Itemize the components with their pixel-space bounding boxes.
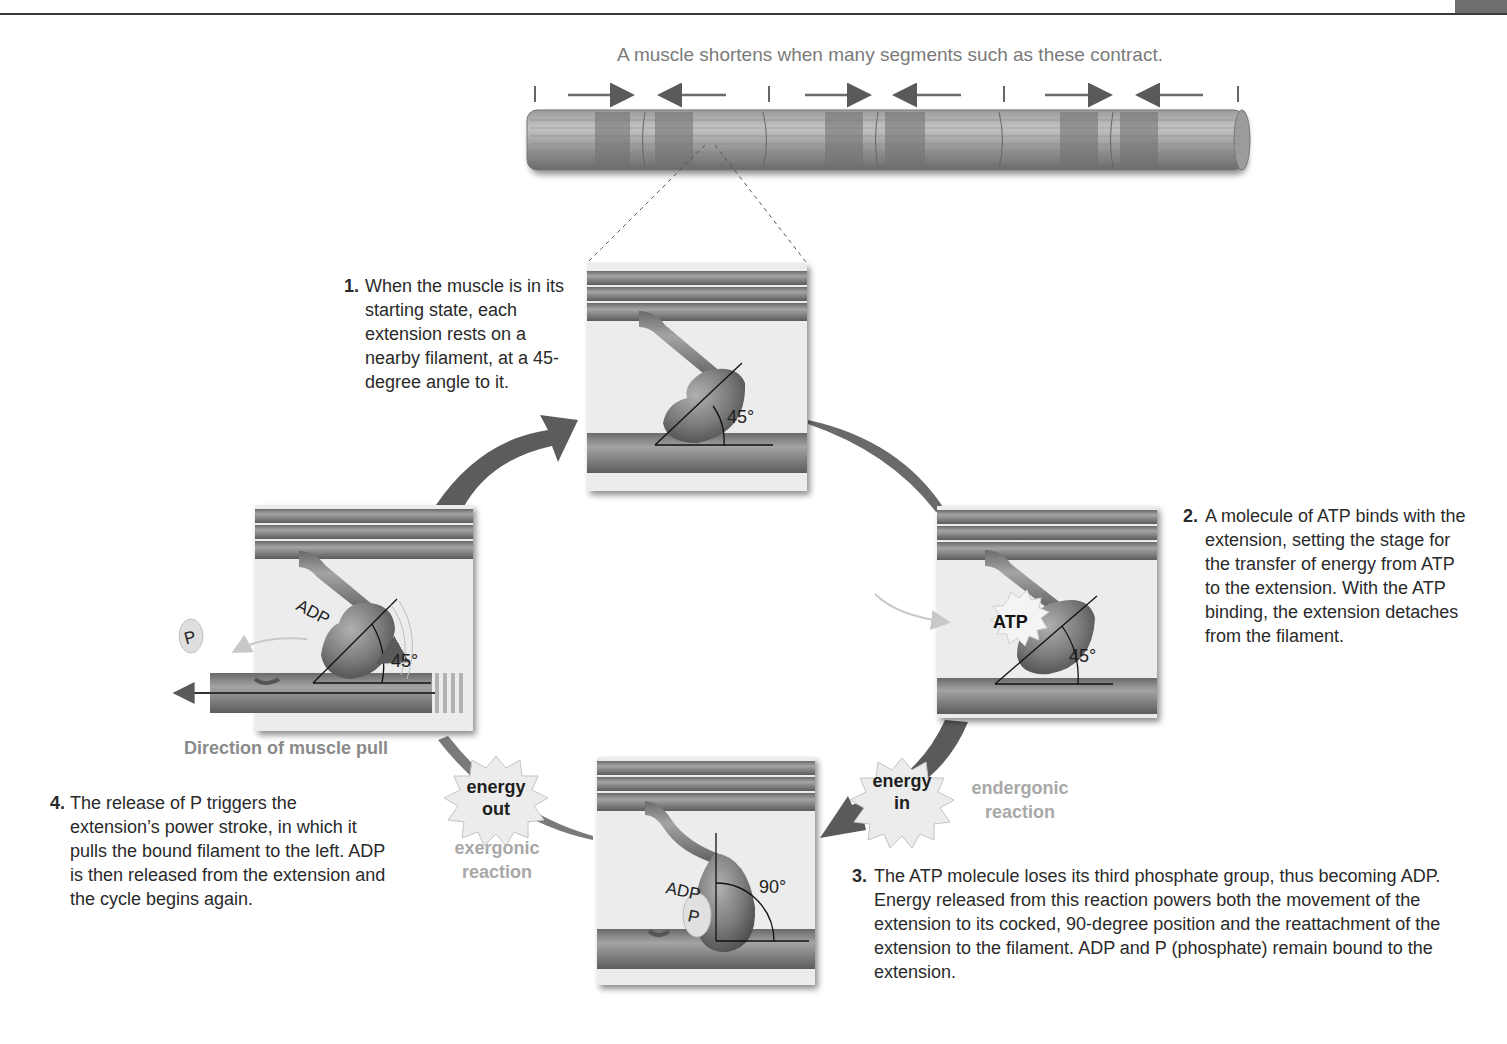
step-1-number: 1. bbox=[344, 274, 359, 298]
panel-2-atp-binding: ATP 45° bbox=[875, 506, 1157, 718]
step-2-text: A molecule of ATP binds with the extensi… bbox=[1183, 504, 1468, 648]
step-1-text: When the muscle is in its starting state… bbox=[344, 274, 569, 394]
energy-out-label: energy out bbox=[454, 776, 538, 820]
step-4-description: 4. The release of P triggers the extensi… bbox=[50, 791, 390, 911]
step-3-number: 3. bbox=[852, 864, 867, 888]
energy-out-line1: energy bbox=[454, 776, 538, 798]
panel-1-angle: 45° bbox=[727, 407, 754, 427]
panel-3-angle: 90° bbox=[759, 877, 786, 897]
endergonic-line2: reaction bbox=[955, 800, 1085, 824]
panel-2-angle: 45° bbox=[1069, 646, 1096, 666]
energy-in-label: energy in bbox=[860, 770, 944, 814]
endergonic-line1: endergonic bbox=[955, 776, 1085, 800]
step-2-description: 2. A molecule of ATP binds with the exte… bbox=[1183, 504, 1468, 648]
arrow-1-to-2 bbox=[808, 420, 945, 512]
exergonic-line2: reaction bbox=[432, 860, 562, 884]
arrow-4-to-1 bbox=[436, 415, 578, 510]
energy-in-line2: in bbox=[860, 792, 944, 814]
energy-in-line1: energy bbox=[860, 770, 944, 792]
step-1-description: 1. When the muscle is in its starting st… bbox=[344, 274, 569, 394]
panel-3-cocked: ADP P 90° bbox=[597, 757, 815, 985]
energy-out-line2: out bbox=[454, 798, 538, 820]
step-4-text: The release of P triggers the extension’… bbox=[50, 791, 390, 911]
step-3-text: The ATP molecule loses its third phospha… bbox=[852, 864, 1467, 984]
step-4-number: 4. bbox=[50, 791, 65, 815]
exergonic-line1: exergonic bbox=[432, 836, 562, 860]
muscle-fiber bbox=[527, 86, 1250, 262]
step-3-description: 3. The ATP molecule loses its third phos… bbox=[852, 864, 1467, 984]
panel-4-angle: 45° bbox=[391, 651, 418, 671]
atp-molecule-label: ATP bbox=[993, 612, 1028, 632]
step-2-number: 2. bbox=[1183, 504, 1198, 528]
direction-of-pull-label: Direction of muscle pull bbox=[184, 738, 388, 759]
endergonic-reaction-label: endergonic reaction bbox=[955, 776, 1085, 824]
panel-1-resting: 45° bbox=[587, 263, 807, 491]
exergonic-reaction-label: exergonic reaction bbox=[432, 836, 562, 884]
panel-4-power-stroke: ADP 45° P bbox=[177, 505, 473, 731]
